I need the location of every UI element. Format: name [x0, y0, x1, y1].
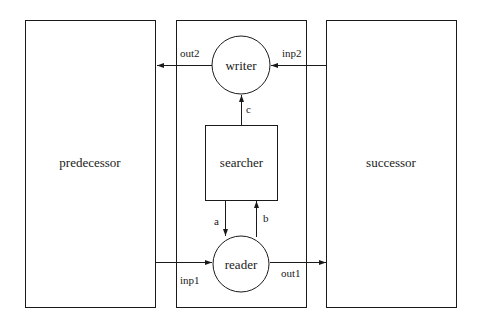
- out2-label: out2: [180, 47, 200, 59]
- searcher-node: searcher: [206, 126, 278, 201]
- reader-node: reader: [213, 236, 269, 292]
- predecessor-label: predecessor: [59, 155, 121, 170]
- edge-b: b: [257, 201, 270, 237]
- c-label: c: [246, 103, 251, 115]
- edge-a: a: [214, 201, 226, 236]
- process-diagram: predecessor successor writer searcher re…: [0, 0, 479, 322]
- out1-label: out1: [281, 267, 301, 279]
- edge-c: c: [242, 95, 252, 125]
- successor-label: successor: [366, 155, 416, 170]
- edge-out2: out2: [157, 47, 212, 66]
- edge-inp2: inp2: [271, 47, 326, 66]
- a-label: a: [214, 215, 219, 227]
- predecessor-node: predecessor: [26, 21, 156, 308]
- writer-node: writer: [212, 36, 270, 94]
- inp2-label: inp2: [282, 47, 302, 59]
- b-label: b: [263, 212, 269, 224]
- writer-label: writer: [225, 58, 257, 73]
- reader-label: reader: [225, 257, 258, 272]
- inp1-label: inp1: [180, 274, 200, 286]
- edge-out1: out1: [270, 263, 326, 280]
- searcher-label: searcher: [220, 155, 264, 170]
- successor-node: successor: [327, 21, 457, 308]
- edge-inp1: inp1: [156, 263, 212, 287]
